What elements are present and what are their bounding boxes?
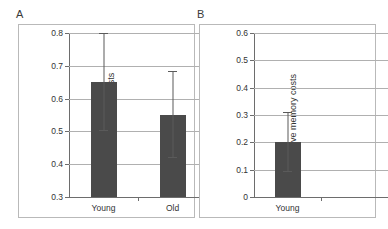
y-axis-tick — [65, 197, 69, 198]
panel-a-axes: 0.30.40.50.60.70.8YoungOld — [69, 33, 207, 197]
y-axis-tick-label: 0.5 — [236, 56, 248, 65]
y-axis-line — [69, 33, 70, 197]
error-bar-cap-bottom — [283, 171, 292, 172]
y-axis-tick-label: 0.1 — [236, 165, 248, 174]
error-bar — [172, 71, 173, 158]
y-axis-tick-label: 0 — [243, 193, 248, 202]
y-axis-tick — [250, 197, 254, 198]
y-axis-tick — [65, 33, 69, 34]
y-axis-tick-label: 0.3 — [236, 111, 248, 120]
y-axis-tick-label: 0.4 — [51, 160, 63, 169]
gridline — [69, 66, 207, 67]
panel-a-plot-area: Absolute memory costs 0.30.40.50.60.70.8… — [69, 33, 207, 197]
y-axis-tick-label: 0.2 — [236, 138, 248, 147]
gridline — [254, 33, 388, 34]
gridline — [254, 88, 388, 89]
y-axis-tick — [250, 170, 254, 171]
x-axis-tick-label: Young — [92, 204, 116, 213]
y-axis-tick-label: 0.8 — [51, 29, 63, 38]
y-axis-tick — [65, 164, 69, 165]
y-axis-tick — [250, 60, 254, 61]
error-bar-cap-bottom — [99, 130, 108, 131]
gridline — [254, 115, 388, 116]
gridline — [69, 33, 207, 34]
y-axis-tick — [250, 33, 254, 34]
panel-b-axes: 00.10.20.30.40.50.6Young — [254, 33, 388, 197]
x-axis-tick — [138, 197, 139, 201]
panel-letter-b: B — [197, 9, 205, 20]
y-axis-tick-label: 0.6 — [236, 29, 248, 38]
y-axis-tick — [65, 99, 69, 100]
y-axis-tick-label: 0.5 — [51, 127, 63, 136]
x-axis-tick-label: Old — [166, 204, 179, 213]
y-axis-tick — [250, 115, 254, 116]
y-axis-tick — [250, 88, 254, 89]
y-axis-tick-label: 0.7 — [51, 62, 63, 71]
panel-b-frame: Relative memory costs 00.10.20.30.40.50.… — [199, 24, 376, 218]
error-bar-cap-top — [168, 71, 177, 72]
y-axis-tick — [250, 142, 254, 143]
x-axis-tick-label: Young — [276, 204, 300, 213]
panel-b-plot-area: Relative memory costs 00.10.20.30.40.50.… — [254, 33, 388, 197]
error-bar-cap-bottom — [168, 157, 177, 158]
x-axis-tick — [321, 197, 322, 201]
y-axis-tick — [65, 131, 69, 132]
error-bar-cap-top — [99, 33, 108, 34]
y-axis-tick-label: 0.6 — [51, 94, 63, 103]
y-axis-tick-label: 0.3 — [51, 193, 63, 202]
panel-a-frame: Absolute memory costs 0.30.40.50.60.70.8… — [18, 24, 195, 218]
gridline — [254, 60, 388, 61]
error-bar — [287, 112, 288, 172]
y-axis-tick-label: 0.4 — [236, 83, 248, 92]
error-bar-cap-top — [283, 112, 292, 113]
error-bar — [103, 33, 104, 131]
panel-letter-a: A — [16, 9, 24, 20]
y-axis-tick — [65, 66, 69, 67]
